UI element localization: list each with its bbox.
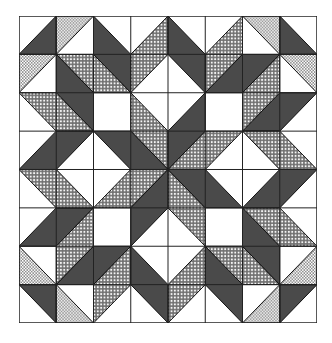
quilt-pattern bbox=[19, 16, 317, 323]
